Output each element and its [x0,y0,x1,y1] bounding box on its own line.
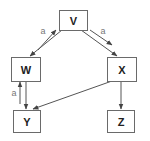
node-label-x: X [118,64,126,76]
edge-label-v-x: a [100,26,105,36]
edge-v-to-x [81,30,117,56]
node-z: Z [108,111,135,133]
edge-label-y-w: a [11,88,16,98]
edge-label-w-v: a [40,26,45,36]
node-label-z: Z [118,116,125,128]
node-label-v: V [70,15,78,27]
node-x: X [108,58,137,82]
node-y: Y [14,111,41,133]
node-w: W [12,58,41,82]
node-label-w: W [21,64,32,76]
node-v: V [60,11,88,31]
dag-diagram: a a a V W X Y Z [0,0,150,141]
node-label-y: Y [23,116,31,128]
edge-v-to-w [30,30,62,56]
edge-x-to-y [33,81,112,109]
